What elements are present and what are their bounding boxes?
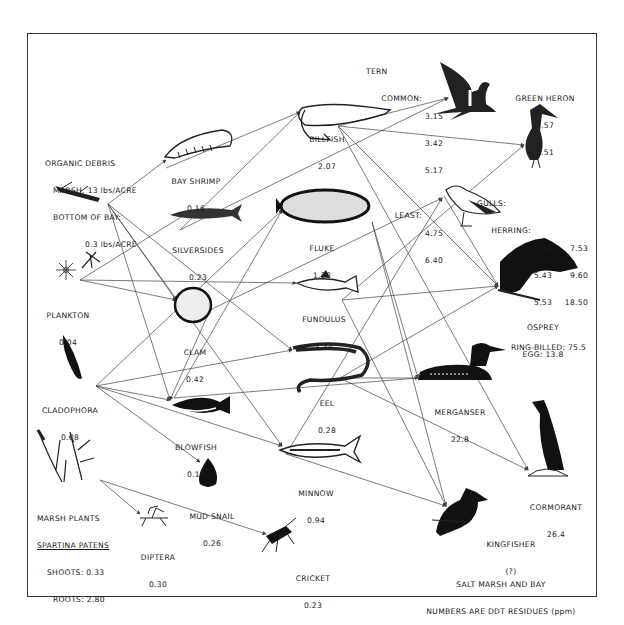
clam-label: CLAM 0.42	[178, 330, 212, 393]
merganser-label: MERGANSER 22.8	[432, 390, 488, 453]
diptera-label: DIPTERA 0.30	[138, 535, 178, 598]
eel-label: EEL 0.28	[312, 381, 342, 444]
edge-fundulus-to-kingfisher	[342, 300, 446, 506]
marsh-plants-label: MARSH PLANTS SPARTINA PATENS SHOOTS: 0.3…	[37, 496, 109, 613]
clam-icon	[175, 288, 211, 322]
blowfish-label: BLOWFISH 0.17	[173, 425, 219, 488]
cricket-icon	[262, 518, 296, 552]
fluke-label: FLUKE 1.28	[300, 226, 344, 289]
billfish-label: BILLFISH 2.07	[305, 117, 349, 180]
green-heron-label: GREEN HERON 3.57 3.51	[510, 76, 580, 166]
edge-plankton-to-clam	[80, 280, 176, 300]
plankton-label: PLANKTON 0.04	[46, 293, 90, 356]
mud-snail-label: MUD SNAIL 0.26	[184, 494, 240, 557]
diptera-icon	[140, 506, 168, 526]
shrimp-icon	[165, 130, 232, 158]
tern-label: TERN COMMON: 3.15 3.42 5.17 LEAST: 4.75 …	[366, 49, 443, 292]
diagram-caption: SALT MARSH AND BAY NUMBERS ARE DDT RESID…	[416, 562, 586, 625]
tern-icon	[434, 62, 496, 120]
minnow-label: MINNOW 0.94	[296, 471, 336, 534]
organic-debris-label: ORGANIC DEBRIS MARSH: 13 lbs/ACRE BOTTOM…	[45, 141, 137, 258]
silversides-label: SILVERSIDES 0.23	[168, 228, 228, 291]
diagram-title: SALT MARSH AND BAY	[416, 580, 586, 589]
diagram-subtitle: NUMBERS ARE DDT RESIDUES (ppm)	[416, 607, 586, 616]
blowfish-icon	[172, 396, 230, 414]
osprey-label: OSPREY EGG: 13.8	[518, 305, 568, 368]
fundulus-label: FUNDULUS 1.24	[298, 297, 350, 360]
bay-shrimp-label: BAY SHRIMP 0.16	[168, 159, 224, 222]
cladophora-label: CLADOPHORA 0.08	[40, 388, 100, 451]
cormorant-icon	[528, 400, 568, 476]
cricket-label: CRICKET 0.23	[293, 556, 333, 619]
edge-marsh-plants-to-cricket	[100, 480, 266, 534]
fluke-icon	[276, 190, 369, 222]
